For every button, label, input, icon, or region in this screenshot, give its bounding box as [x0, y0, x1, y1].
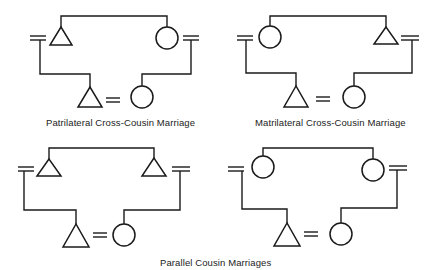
- sibling-link-line: [61, 16, 167, 27]
- female-circle-icon: [259, 26, 281, 48]
- male-triangle-icon: [78, 87, 102, 107]
- kinship-diagram-figure: Patrilateral Cross-Cousin Marriage Matri…: [0, 0, 437, 270]
- male-triangle-icon: [274, 223, 300, 246]
- marriage-equals-icon: [316, 97, 330, 101]
- marriage-equals-icon: [183, 36, 199, 40]
- kinship-diagrams-canvas: [0, 0, 437, 270]
- marriage-equals-icon: [172, 167, 190, 171]
- female-circle-icon: [343, 86, 365, 108]
- descent-line: [24, 171, 76, 224]
- female-circle-icon: [113, 224, 135, 246]
- panel-parallel-matri: [228, 148, 407, 246]
- marriage-equals-icon: [401, 36, 419, 40]
- marriage-equals-icon: [228, 167, 244, 171]
- descent-line: [40, 40, 90, 87]
- descent-line: [354, 40, 412, 86]
- sibling-link-line: [263, 148, 373, 159]
- marriage-equals-icon: [237, 36, 253, 40]
- male-triangle-icon: [142, 158, 166, 176]
- male-triangle-icon: [37, 159, 61, 176]
- caption-patrilateral: Patrilateral Cross-Cousin Marriage: [46, 117, 195, 128]
- caption-parallel-cousin-marriages: Parallel Cousin Marriages: [160, 257, 271, 268]
- female-circle-icon: [330, 223, 352, 245]
- sibling-link-line: [270, 16, 386, 27]
- marriage-equals-icon: [304, 232, 318, 236]
- female-circle-icon: [362, 159, 384, 181]
- panel-parallel-patri: [18, 148, 190, 247]
- marriage-equals-icon: [389, 166, 407, 170]
- marriage-equals-icon: [30, 36, 46, 40]
- descent-line: [242, 171, 287, 223]
- male-triangle-icon: [63, 224, 89, 247]
- male-triangle-icon: [50, 27, 72, 45]
- caption-matrilateral: Matrilateral Cross-Cousin Marriage: [255, 117, 406, 128]
- sibling-link-line: [49, 148, 154, 159]
- male-triangle-icon: [374, 27, 398, 44]
- panel-patrilateral: [30, 16, 199, 108]
- female-circle-icon: [252, 156, 274, 178]
- female-circle-icon: [131, 86, 153, 108]
- panel-matrilateral: [237, 16, 419, 108]
- marriage-equals-icon: [18, 167, 34, 171]
- marriage-equals-icon: [93, 233, 107, 237]
- male-triangle-icon: [284, 86, 308, 107]
- marriage-equals-icon: [106, 98, 120, 102]
- descent-line: [124, 171, 180, 224]
- female-circle-icon: [156, 27, 178, 49]
